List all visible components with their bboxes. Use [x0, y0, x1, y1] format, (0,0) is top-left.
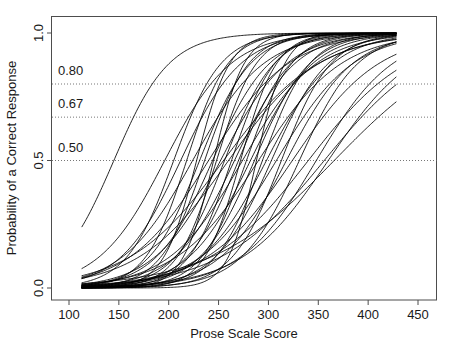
- icc-chart-figure: 0.800.670.50 0.00.51.0 10015020025030035…: [0, 0, 462, 352]
- x-tick-label-0: 100: [58, 307, 80, 322]
- x-tick-label-6: 400: [357, 307, 379, 322]
- reference-line-label-0-50: 0.50: [58, 140, 83, 155]
- y-tick-label-0: 0.0: [31, 279, 46, 297]
- x-tick-label-1: 150: [108, 307, 130, 322]
- x-axis-title: Prose Scale Score: [190, 326, 298, 341]
- y-axis-title: Probability of a Correct Response: [4, 61, 19, 255]
- chart-background: [0, 0, 462, 352]
- item-characteristic-curves-plot: 0.800.670.50 0.00.51.0 10015020025030035…: [0, 0, 462, 352]
- reference-line-label-0-67: 0.67: [58, 96, 83, 111]
- x-tick-label-4: 300: [258, 307, 280, 322]
- x-tick-label-2: 200: [158, 307, 180, 322]
- y-tick-label-1: 0.5: [31, 151, 46, 169]
- x-tick-label-5: 350: [307, 307, 329, 322]
- y-tick-label-2: 1.0: [31, 24, 46, 42]
- x-tick-label-7: 450: [407, 307, 429, 322]
- reference-line-labels-group: 0.800.670.50: [58, 63, 83, 155]
- x-tick-label-3: 250: [208, 307, 230, 322]
- reference-line-label-0-80: 0.80: [58, 63, 83, 78]
